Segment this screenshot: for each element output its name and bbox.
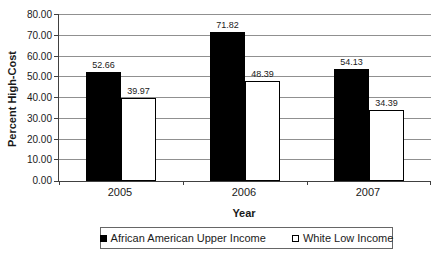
y-axis-tick — [54, 118, 59, 119]
bar-african-american-upper-income-2007 — [334, 69, 369, 181]
legend-label-white-low-income: White Low Income — [303, 232, 393, 244]
x-axis-title: Year — [58, 207, 430, 219]
legend-item-african-american-upper-income: African American Upper Income — [100, 232, 266, 244]
x-category-label-2006: 2006 — [182, 186, 306, 199]
y-axis-tick-label: 60.00 — [0, 51, 52, 63]
bar-value-label: 71.82 — [198, 20, 258, 31]
bar-white-low-income-2006 — [245, 81, 280, 181]
y-axis-tick-label: 30.00 — [0, 113, 52, 125]
x-category-label-2007: 2007 — [306, 186, 430, 199]
black-square-swatch-icon — [100, 235, 107, 242]
gridline-70.00 — [59, 35, 431, 36]
y-axis-tick-label: 10.00 — [0, 154, 52, 166]
y-axis-tick — [54, 139, 59, 140]
y-axis-tick — [54, 76, 59, 77]
bar-african-american-upper-income-2006 — [210, 32, 245, 181]
y-axis-tick — [54, 159, 59, 160]
x-axis-tick — [430, 181, 431, 185]
y-axis-tick — [54, 56, 59, 57]
y-axis-tick-label: 50.00 — [0, 71, 52, 83]
x-axis-tick — [183, 181, 184, 185]
legend: African American Upper Income White Low … — [100, 227, 393, 249]
bar-value-label: 34.39 — [357, 98, 417, 109]
bar-value-label: 39.97 — [109, 86, 169, 97]
y-axis-tick — [54, 97, 59, 98]
bar-white-low-income-2005 — [121, 98, 156, 181]
x-axis-tick — [59, 181, 60, 185]
legend-label-african-american-upper-income: African American Upper Income — [111, 232, 266, 244]
y-axis-tick-label: 40.00 — [0, 92, 52, 104]
bar-white-low-income-2007 — [369, 110, 404, 181]
x-axis-tick — [307, 181, 308, 185]
white-square-swatch-icon — [292, 235, 299, 242]
y-axis-tick-label: 20.00 — [0, 134, 52, 146]
y-axis-tick-label: 70.00 — [0, 30, 52, 42]
legend-item-white-low-income: White Low Income — [292, 232, 393, 244]
plot-area: 52.6639.9771.8248.3954.1334.39 — [58, 15, 431, 182]
gridline-80.00 — [59, 14, 431, 15]
y-axis-tick — [54, 14, 59, 15]
bar-chart: Percent High-Cost 52.6639.9771.8248.3954… — [0, 0, 438, 257]
bar-value-label: 54.13 — [322, 57, 382, 68]
y-axis-tick-label: 0.00 — [0, 175, 52, 187]
bar-value-label: 52.66 — [74, 60, 134, 71]
y-axis-tick — [54, 35, 59, 36]
bar-value-label: 48.39 — [233, 69, 293, 80]
x-category-label-2005: 2005 — [58, 186, 182, 199]
y-axis-tick-label: 80.00 — [0, 9, 52, 21]
